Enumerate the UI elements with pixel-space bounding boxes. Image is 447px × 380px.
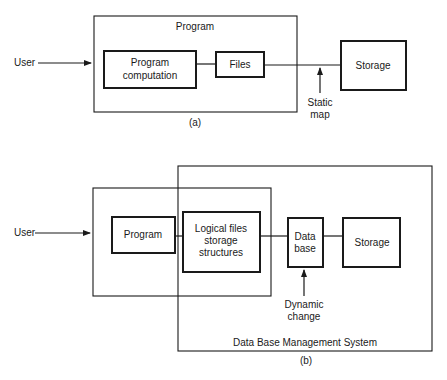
dynamic-change-line2: change — [288, 311, 321, 322]
database-line2: base — [294, 243, 316, 254]
program-container-label: Program — [176, 21, 214, 32]
program-label-b: Program — [124, 229, 162, 240]
diagram-canvas: User Program Program computation Files S… — [0, 0, 447, 380]
program-computation-line1: Program — [131, 57, 169, 68]
dynamic-change-line1: Dynamic — [285, 299, 324, 310]
logical-files-line3: structures — [199, 247, 243, 258]
caption-b: (b) — [300, 355, 312, 366]
diagram-a: User Program Program computation Files S… — [14, 16, 406, 128]
user-label-b: User — [14, 227, 36, 238]
diagram-b: Data Base Management System User Program… — [14, 166, 432, 366]
caption-a: (a) — [189, 117, 201, 128]
user-label-a: User — [14, 57, 36, 68]
database-line1: Data — [294, 231, 316, 242]
logical-files-line1: Logical files — [195, 223, 247, 234]
storage-label-b: Storage — [354, 237, 389, 248]
storage-label-a: Storage — [355, 60, 390, 71]
static-map-line1: Static — [307, 97, 332, 108]
static-map-line2: map — [310, 109, 330, 120]
logical-files-line2: storage — [204, 235, 238, 246]
dbms-label: Data Base Management System — [233, 337, 377, 348]
program-computation-line2: computation — [123, 70, 177, 81]
files-label: Files — [229, 59, 250, 70]
